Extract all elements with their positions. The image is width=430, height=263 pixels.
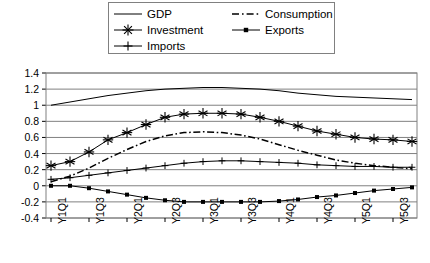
series-line [51, 88, 412, 106]
y-axis-tick-label: 0 [0, 181, 39, 192]
y-axis-tick-label: 0.6 [0, 132, 39, 143]
x-axis-tick-label: Y5Q3 [398, 197, 410, 224]
y-axis-tick-label: -0.2 [0, 197, 39, 208]
x-axis-tick-label: Y5Q1 [360, 197, 372, 224]
series-gdp [51, 88, 412, 106]
x-axis-tick-label: Y1Q1 [56, 197, 68, 224]
x-axis-tick-label: Y3Q1 [208, 197, 220, 224]
series-investment [46, 108, 417, 171]
y-axis-tick-label: 1.4 [0, 68, 39, 79]
y-axis-tick-label: 0.4 [0, 149, 39, 160]
x-axis-tick-label: Y3Q3 [246, 197, 258, 224]
x-axis-tick-label: Y4Q1 [284, 197, 296, 224]
x-axis-tick-label: Y4Q3 [322, 197, 334, 224]
y-axis-tick-label: -0.4 [0, 213, 39, 224]
chart-container: GDP Investment [0, 0, 430, 263]
y-axis-tick-label: 1 [0, 100, 39, 111]
x-axis-tick-label: Y1Q3 [94, 197, 106, 224]
x-axis-tick-label: Y2Q1 [132, 197, 144, 224]
y-axis-tick-label: 0.2 [0, 165, 39, 176]
x-axis-tick-label: Y2Q3 [170, 197, 182, 224]
y-axis-tick-label: 1.2 [0, 84, 39, 95]
y-axis-tick-label: 0.8 [0, 116, 39, 127]
